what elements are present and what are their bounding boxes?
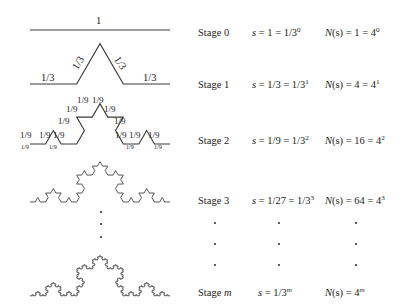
ellipsis-dot-stage-2 bbox=[214, 243, 216, 245]
n-formula-0: N(s) = 1 = 40 bbox=[325, 28, 380, 39]
n-value-2: = 16 = 4 bbox=[346, 135, 381, 146]
ellipsis-dot-n-1 bbox=[355, 222, 357, 224]
koch-curve-stage-3 bbox=[0, 152, 200, 208]
n-value-1: = 4 = 4 bbox=[346, 79, 376, 90]
n-arg-m: (s) bbox=[332, 287, 343, 298]
n-exponent-1: 1 bbox=[376, 78, 380, 86]
segment-label-s2-10: 1/9 bbox=[104, 105, 116, 114]
koch-svg-stage-3 bbox=[0, 152, 200, 208]
segment-label-stage1-left: 1/3 bbox=[41, 73, 54, 84]
koch-path-stage-m bbox=[30, 256, 170, 296]
s-exponent-0: 0 bbox=[297, 26, 301, 34]
segment-label-stage0: 1 bbox=[96, 16, 101, 27]
n-symbol-1: N bbox=[325, 79, 332, 90]
segment-label-s2-3: 1/9 bbox=[39, 131, 51, 140]
segment-label-s2-6: 1/9 bbox=[58, 117, 70, 126]
segment-label-s2-15: 1/9 bbox=[148, 131, 160, 140]
s-exponent-1: 1 bbox=[305, 78, 309, 86]
ellipsis-dot-left-2 bbox=[100, 223, 102, 225]
ellipsis-dot-stage-1 bbox=[214, 222, 216, 224]
ellipsis-dot-stage-3 bbox=[214, 264, 216, 266]
koch-svg-stage-1 bbox=[0, 40, 200, 90]
ellipsis-dot-s-2 bbox=[278, 243, 280, 245]
s-value-3: = 1/27 = 1/3 bbox=[259, 195, 311, 206]
stage-label-m: Stage m bbox=[198, 288, 232, 299]
ellipsis-dot-n-2 bbox=[355, 243, 357, 245]
koch-curve-stage-m bbox=[0, 244, 200, 302]
n-symbol-m: N bbox=[325, 287, 332, 298]
ellipsis-dot-left-1 bbox=[100, 211, 102, 213]
n-exponent-3: 3 bbox=[381, 194, 385, 202]
n-value-m: = 4 bbox=[346, 287, 360, 298]
n-arg-2: (s) bbox=[332, 135, 343, 146]
n-formula-3: N(s) = 64 = 43 bbox=[325, 196, 385, 207]
s-formula-3: s = 1/27 = 1/33 bbox=[252, 196, 314, 207]
s-formula-m: s = 1/3m bbox=[258, 288, 292, 299]
s-formula-2: s = 1/9 = 1/32 bbox=[252, 136, 309, 147]
segment-label-s2-7: 1/9 bbox=[66, 105, 78, 114]
s-symbol-m: s bbox=[258, 287, 262, 298]
segment-label-stage1-right: 1/3 bbox=[143, 73, 156, 84]
stage-label-2: Stage 2 bbox=[198, 136, 229, 147]
fractal-column: 1 1/3 1/3 1/3 1/3 1/9 1/9 1/9 1/9 1/9 1/… bbox=[0, 0, 200, 308]
koch-curve-stage-1 bbox=[0, 40, 200, 90]
segment-label-s2-14: 1/9 bbox=[126, 144, 134, 150]
n-arg-3: (s) bbox=[332, 195, 343, 206]
n-formula-1: N(s) = 4 = 41 bbox=[325, 80, 380, 91]
koch-curve-figure: 1 1/3 1/3 1/3 1/3 1/9 1/9 1/9 1/9 1/9 1/… bbox=[0, 0, 409, 308]
s-value-2: = 1/9 = 1/3 bbox=[259, 135, 306, 146]
s-value-1: = 1/3 = 1/3 bbox=[259, 79, 306, 90]
segment-label-s2-16: 1/9 bbox=[154, 144, 162, 150]
stage-label-m-prefix: Stage bbox=[198, 287, 224, 298]
n-exponent-2: 2 bbox=[381, 134, 385, 142]
segment-label-s2-9: 1/9 bbox=[92, 96, 104, 105]
s-formula-1: s = 1/3 = 1/31 bbox=[252, 80, 309, 91]
stage-label-m-var: m bbox=[224, 287, 232, 298]
s-value-m: = 1/3 bbox=[265, 287, 287, 298]
ellipsis-dot-s-3 bbox=[278, 264, 280, 266]
n-exponent-m: m bbox=[360, 286, 365, 294]
ellipsis-dot-left-3 bbox=[100, 236, 102, 238]
segment-label-s2-12: 1/9 bbox=[115, 131, 127, 140]
s-symbol-1: s bbox=[252, 79, 256, 90]
n-value-0: = 1 = 4 bbox=[346, 27, 376, 38]
n-exponent-0: 0 bbox=[376, 26, 380, 34]
n-symbol-2: N bbox=[325, 135, 332, 146]
ellipsis-dot-s-1 bbox=[278, 222, 280, 224]
n-symbol-0: N bbox=[325, 27, 332, 38]
n-formula-m: N(s) = 4m bbox=[325, 288, 365, 299]
s-exponent-2: 2 bbox=[305, 134, 309, 142]
s-exponent-m: m bbox=[287, 286, 292, 294]
s-symbol-0: s bbox=[252, 27, 256, 38]
s-symbol-2: s bbox=[252, 135, 256, 146]
stage-label-3: Stage 3 bbox=[198, 196, 229, 207]
s-formula-0: s = 1 = 1/30 bbox=[252, 28, 301, 39]
n-symbol-3: N bbox=[325, 195, 332, 206]
segment-label-s2-5: 1/9 bbox=[49, 144, 57, 150]
segment-label-s2-4: 1/9 bbox=[53, 131, 65, 140]
segment-label-s2-8: 1/9 bbox=[77, 96, 89, 105]
segment-label-s2-2: 1/9 bbox=[21, 144, 29, 150]
s-exponent-3: 3 bbox=[311, 194, 315, 202]
stage-label-1: Stage 1 bbox=[198, 80, 229, 91]
n-arg-1: (s) bbox=[332, 79, 343, 90]
segment-label-s2-13: 1/9 bbox=[129, 131, 141, 140]
n-value-3: = 64 = 4 bbox=[346, 195, 381, 206]
segment-label-s2-1: 1/9 bbox=[20, 131, 32, 140]
koch-path-stage-3 bbox=[30, 162, 170, 202]
s-value-0: = 1 = 1/3 bbox=[259, 27, 297, 38]
s-symbol-3: s bbox=[252, 195, 256, 206]
koch-svg-stage-m bbox=[0, 244, 200, 302]
n-formula-2: N(s) = 16 = 42 bbox=[325, 136, 385, 147]
ellipsis-dot-n-3 bbox=[355, 264, 357, 266]
segment-label-s2-11: 1/9 bbox=[114, 117, 126, 126]
stage-label-0: Stage 0 bbox=[198, 28, 229, 39]
n-arg-0: (s) bbox=[332, 27, 343, 38]
